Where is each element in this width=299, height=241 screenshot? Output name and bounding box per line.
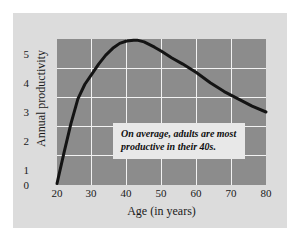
- x-tick-label-50: 50: [146, 188, 176, 199]
- y-tick-label-4: 4: [0, 78, 29, 89]
- plot-area: [57, 39, 266, 185]
- y-tick-label-2: 2: [0, 136, 29, 147]
- y-tick-label-1: 1: [0, 165, 29, 176]
- x-tick-label-70: 70: [216, 188, 246, 199]
- x-tick-label-30: 30: [76, 188, 106, 199]
- x-tick-label-20: 20: [42, 188, 72, 199]
- x-tick-label-60: 60: [181, 188, 211, 199]
- figure-card: Annual productivity 5 4 3 2 1 0 20 30 40…: [13, 13, 287, 228]
- y-axis-title: Annual productivity: [34, 26, 49, 172]
- y-tick-label-0: 0: [0, 180, 29, 191]
- callout-line-2: productive in their 40s.: [121, 141, 238, 154]
- y-tick-label-3: 3: [0, 107, 29, 118]
- productivity-chart: Annual productivity 5 4 3 2 1 0 20 30 40…: [13, 13, 287, 228]
- callout-annotation: On average, adults are most productive i…: [113, 123, 245, 159]
- callout-line-1: On average, adults are most: [121, 128, 238, 141]
- x-axis-title: Age (in years): [57, 204, 266, 219]
- productivity-curve: [57, 39, 266, 185]
- x-tick-label-40: 40: [111, 188, 141, 199]
- y-tick-label-5: 5: [0, 49, 29, 60]
- x-tick-label-80: 80: [251, 188, 281, 199]
